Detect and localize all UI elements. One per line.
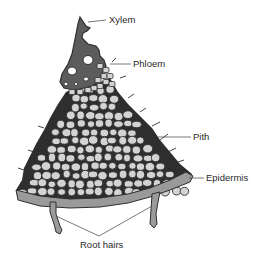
pith-cell bbox=[99, 162, 107, 169]
pith-cell bbox=[51, 172, 60, 180]
pith-cell bbox=[94, 187, 102, 196]
pith-cell bbox=[61, 164, 70, 171]
pith-cell bbox=[86, 156, 95, 162]
phloem-cell bbox=[91, 86, 97, 91]
pith-cell bbox=[88, 136, 98, 145]
pith-cell bbox=[86, 112, 96, 120]
pith-cell bbox=[124, 120, 132, 126]
phloem-cell bbox=[97, 64, 103, 69]
pith-cell bbox=[136, 163, 144, 171]
pith-cell bbox=[133, 155, 143, 162]
xylem-vessel bbox=[84, 77, 89, 81]
pith-cell bbox=[91, 162, 100, 169]
pith-cell bbox=[47, 146, 57, 154]
pith-cell bbox=[114, 112, 123, 120]
pith-cell bbox=[114, 121, 124, 128]
phloem-cell bbox=[69, 90, 75, 95]
pith-cell bbox=[113, 146, 122, 153]
pith-cell bbox=[109, 162, 117, 169]
pith-cell bbox=[77, 146, 84, 154]
root-hairs-label: Root hairs bbox=[80, 239, 124, 250]
pith-cell bbox=[123, 146, 131, 154]
pith-cell bbox=[123, 111, 133, 119]
pith-cell bbox=[132, 121, 142, 127]
pith-cell bbox=[100, 129, 109, 137]
pith-cell bbox=[62, 129, 71, 137]
projection bbox=[120, 76, 126, 78]
pith-cell bbox=[77, 111, 85, 120]
pith-cell bbox=[32, 164, 42, 170]
pith-cell bbox=[38, 188, 48, 196]
pith-cell bbox=[180, 187, 189, 195]
pith-cell bbox=[52, 138, 61, 145]
pith-cell bbox=[79, 137, 89, 145]
pith-cell bbox=[95, 113, 105, 120]
pith-cell bbox=[72, 173, 80, 180]
pith-cell bbox=[128, 130, 136, 137]
pith-cell bbox=[53, 162, 61, 170]
pith-cell bbox=[71, 163, 81, 171]
pith-cell bbox=[80, 96, 88, 103]
pith-cell bbox=[88, 171, 97, 178]
phloem-label: Phloem bbox=[133, 58, 165, 69]
pith-cell bbox=[81, 163, 88, 171]
projection bbox=[168, 148, 176, 152]
pith-cell bbox=[47, 188, 55, 196]
pith-cell bbox=[105, 187, 114, 195]
xylem-leader-line bbox=[88, 20, 106, 22]
pith-cell bbox=[68, 180, 75, 188]
phloem-cell bbox=[101, 74, 107, 79]
pith-cell bbox=[77, 189, 85, 196]
pith-cell bbox=[165, 171, 174, 177]
pith-cell bbox=[33, 172, 41, 180]
pith-cell bbox=[60, 138, 68, 144]
pith-cell bbox=[137, 137, 145, 144]
pith-cell bbox=[143, 145, 153, 153]
pith-cell bbox=[77, 120, 85, 127]
pith-cell bbox=[72, 94, 80, 102]
pith-cell bbox=[156, 163, 165, 170]
pith-cell bbox=[119, 170, 127, 178]
phloem-cell bbox=[95, 78, 101, 83]
pith-cell bbox=[98, 172, 107, 180]
pith-cell bbox=[89, 95, 98, 102]
root-cross-section-diagram: Xylem Phloem Pith Epidermis Root hairs bbox=[0, 0, 259, 257]
pith-cell bbox=[107, 137, 116, 144]
xylem-label: Xylem bbox=[109, 14, 135, 25]
pith-cell bbox=[51, 129, 59, 136]
pith-cell bbox=[104, 153, 112, 161]
pith-label: Pith bbox=[193, 131, 209, 142]
pith-cell bbox=[95, 120, 103, 128]
pith-cell bbox=[123, 154, 130, 162]
pith-cell bbox=[115, 153, 123, 161]
pith-cell bbox=[66, 155, 75, 162]
projection bbox=[152, 122, 160, 126]
projection bbox=[128, 94, 134, 98]
xylem-vessel bbox=[68, 67, 77, 75]
pith-cell bbox=[71, 129, 79, 137]
pith-cell bbox=[66, 111, 75, 120]
pith-cell bbox=[48, 181, 56, 188]
pith-cell bbox=[67, 145, 76, 152]
xylem-vessel bbox=[83, 56, 93, 65]
pith-cell bbox=[75, 180, 84, 189]
pith-cell bbox=[108, 103, 116, 110]
pith-cell bbox=[85, 145, 94, 153]
pith-cell bbox=[80, 103, 87, 109]
pith-cell bbox=[142, 179, 152, 186]
phloem-cell bbox=[85, 88, 91, 93]
pith-cell bbox=[146, 171, 155, 178]
pith-cell bbox=[41, 162, 51, 171]
phloem-cell bbox=[77, 90, 83, 95]
phloem-cell bbox=[103, 68, 109, 73]
pith-cell bbox=[100, 102, 108, 110]
pith-cell bbox=[129, 163, 136, 170]
pith-cell bbox=[87, 121, 94, 128]
phloem-cell bbox=[103, 80, 109, 85]
projection bbox=[18, 168, 24, 170]
pith-cell bbox=[58, 153, 66, 162]
epidermis-label: Epidermis bbox=[206, 172, 248, 183]
pith-cell bbox=[78, 154, 86, 160]
pith-cell bbox=[57, 120, 65, 128]
pith-cell bbox=[48, 153, 55, 162]
